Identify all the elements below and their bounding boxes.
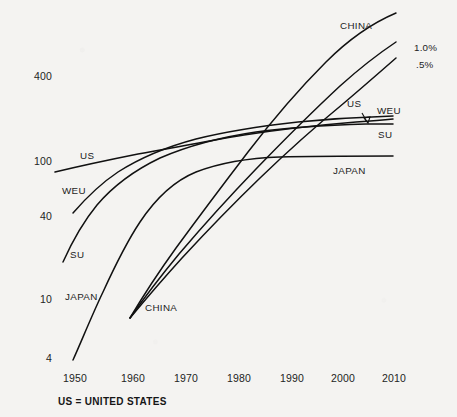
series-label-china-top: CHINA	[340, 20, 372, 31]
series-label-japan-left: JAPAN	[65, 291, 98, 302]
y-tick-40: 40	[4, 210, 52, 222]
x-tick-2000: 2000	[319, 372, 367, 384]
series-line-china-one-percent	[130, 42, 396, 318]
series-label-china-bottom: CHINA	[145, 302, 177, 313]
series-label-su-left: SU	[70, 249, 84, 260]
x-tick-1990: 1990	[268, 372, 316, 384]
y-tick-4: 4	[4, 352, 52, 364]
series-line-su	[63, 124, 393, 262]
y-tick-400: 400	[4, 70, 52, 82]
x-tick-1980: 1980	[215, 372, 263, 384]
series-label-weu-right: WEU	[377, 105, 401, 116]
y-tick-100: 100	[4, 155, 52, 167]
series-label-su-right: SU	[378, 129, 392, 140]
series-label-us-left: US	[80, 150, 94, 161]
chart-container: 400 100 40 10 4 1950 1960 1970 1980 1990…	[0, 0, 457, 417]
annotation-one-percent: 1.0%	[414, 42, 437, 53]
series-label-japan-right: JAPAN	[333, 165, 366, 176]
x-tick-1960: 1960	[109, 372, 157, 384]
chart-footnote: US = UNITED STATES	[58, 396, 167, 407]
annotation-half-percent: .5%	[416, 59, 433, 70]
series-label-weu-left: WEU	[62, 185, 86, 196]
series-line-japan	[73, 156, 393, 360]
series-label-us-right: US	[347, 98, 361, 109]
x-tick-1950: 1950	[51, 372, 99, 384]
y-tick-10: 10	[4, 293, 52, 305]
x-tick-2010: 2010	[370, 372, 418, 384]
x-tick-1970: 1970	[162, 372, 210, 384]
chart-plot-area	[0, 0, 457, 417]
